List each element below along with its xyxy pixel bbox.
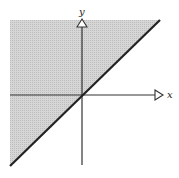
- x-axis-label: x: [167, 89, 173, 100]
- x-axis-arrow-icon: [155, 90, 163, 100]
- inequality-graph: x y: [0, 0, 179, 178]
- y-axis-label: y: [78, 6, 85, 17]
